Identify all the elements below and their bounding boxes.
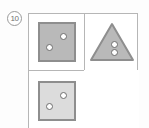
item-number-badge: 10 [7, 11, 22, 26]
matrix-grid [28, 13, 138, 128]
dot-icon [46, 103, 53, 110]
matrix-cell-bottom-right-answer[interactable] [84, 70, 139, 128]
triangle-shape-wrapper [89, 22, 135, 62]
square-icon [38, 81, 76, 121]
dot-icon [111, 41, 118, 48]
triangle-icon [89, 22, 135, 62]
matrix-cell-top-left[interactable] [29, 14, 84, 70]
square-icon [38, 22, 76, 62]
square-shape-dark-wrapper [38, 22, 76, 62]
dot-icon [111, 49, 118, 56]
square-shape-light-wrapper [38, 81, 76, 121]
matrix-cell-top-right[interactable] [84, 14, 139, 70]
dot-icon [60, 92, 67, 99]
dot-icon [60, 33, 67, 40]
matrix-cell-bottom-left[interactable] [29, 70, 84, 128]
dot-icon [46, 44, 53, 51]
matrix-reasoning-item: 10 [0, 0, 149, 128]
